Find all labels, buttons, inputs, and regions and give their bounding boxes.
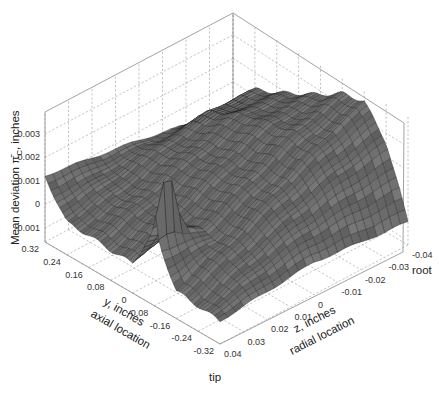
tick-label: 0.24 bbox=[43, 257, 61, 267]
tick-label: 0.04 bbox=[224, 349, 242, 359]
tick-label: -0.32 bbox=[193, 346, 214, 356]
tick-label: 0.16 bbox=[65, 270, 83, 280]
tick-label: -0.01 bbox=[342, 287, 363, 297]
tick-label: -0.02 bbox=[365, 275, 386, 285]
tick-label: 0 bbox=[35, 199, 40, 209]
tick-label: -0.03 bbox=[389, 262, 410, 272]
tick-label: 0.02 bbox=[271, 324, 289, 334]
tick-label: 0.08 bbox=[87, 282, 105, 292]
root-annotation: root bbox=[412, 264, 433, 276]
tick-label: 0.03 bbox=[248, 337, 266, 347]
tick-label: -0.24 bbox=[172, 333, 193, 343]
tick-label: -0.04 bbox=[412, 250, 433, 260]
tick-label: -0.16 bbox=[150, 321, 171, 331]
tip-annotation: tip bbox=[209, 371, 221, 383]
tick-label: 0.32 bbox=[21, 244, 39, 254]
surface-plot: 0.0030.0020.0010-0.0010.320.240.160.080-… bbox=[0, 0, 439, 394]
